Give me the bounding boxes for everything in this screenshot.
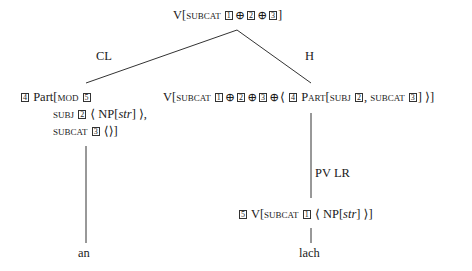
edge-label-pv-lr: PV LR <box>315 166 350 181</box>
tag-box: 5 <box>239 210 247 219</box>
leaf-word-an: an <box>78 246 90 261</box>
tag-box: 2 <box>237 93 245 102</box>
leaf-word-lach: lach <box>299 246 320 261</box>
tag-box: 4 <box>21 93 29 102</box>
tag-box: 1 <box>215 93 223 102</box>
left-child-node: 4 Part[mod 5 <box>20 90 92 105</box>
tag-box: 1 <box>303 210 311 219</box>
tag-box: 3 <box>409 93 417 102</box>
tag-box: 4 <box>289 93 297 102</box>
lexical-node: 5 V[subcat 1 ⟨ NP[str] ⟩] <box>238 207 373 222</box>
tag-box: 3 <box>92 127 100 136</box>
right-child-node: V[subcat 1⊕2⊕3⊕⟨ 4 Part[subj 2, subcat 3… <box>163 90 434 105</box>
tag-box: 5 <box>83 93 91 102</box>
tag-box: 3 <box>259 93 267 102</box>
edge-label-h: H <box>305 49 314 64</box>
left-child-subj: subj 2 ⟨ NP[str] ⟩, <box>53 107 147 122</box>
root-node: V[subcat 1⊕2⊕3] <box>173 8 282 23</box>
edge-label-cl: CL <box>96 49 112 64</box>
tag-box: 2 <box>355 93 363 102</box>
tag-box: 2 <box>78 110 86 119</box>
left-child-subcat: subcat 3 ⟨⟩] <box>53 124 118 139</box>
tag-box: 3 <box>269 11 277 20</box>
tag-box: 1 <box>225 11 233 20</box>
tag-box: 2 <box>247 11 255 20</box>
